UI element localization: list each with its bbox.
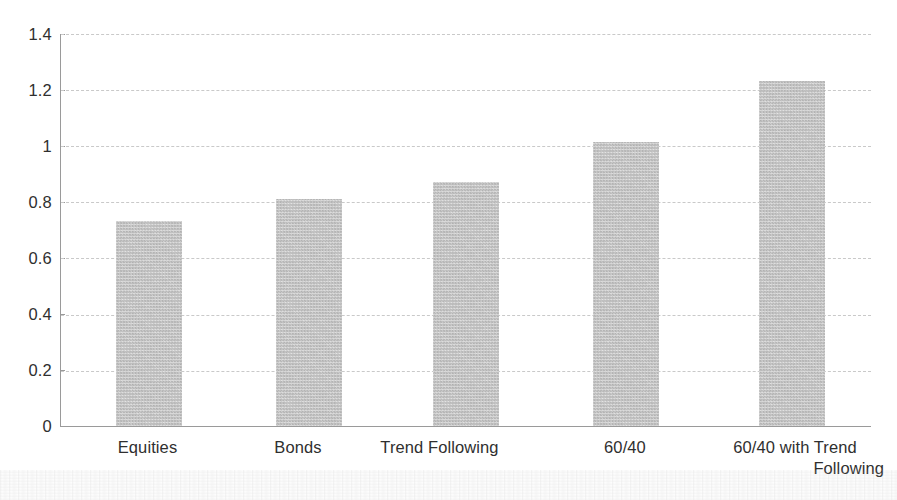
bar-chart: 1.4 1.2 1 0.8 0.6 0.4 0.2 0 Equities Bon — [0, 0, 897, 500]
x-label-60-40: 60/40 — [545, 437, 705, 458]
bar-60-40-with-trend-following — [759, 81, 825, 426]
x-label-60-40-text: 60/40 — [604, 438, 646, 456]
y-tick-label-0.4: 0.4 — [28, 305, 52, 324]
bar-bonds — [276, 199, 342, 426]
gridline-1.4 — [61, 34, 871, 35]
gridline-1.2 — [61, 90, 871, 91]
scan-texture — [0, 470, 897, 500]
y-tick-label-0.6: 0.6 — [28, 249, 52, 268]
x-label-trend-following-text: Trend Following — [380, 438, 498, 456]
y-tick-label-1.4: 1.4 — [28, 25, 52, 44]
y-tick-label-0: 0 — [43, 417, 52, 436]
y-axis: 1.4 1.2 1 0.8 0.6 0.4 0.2 0 — [0, 0, 52, 500]
x-label-trend-following: Trend Following — [352, 437, 527, 458]
y-tick-label-0.8: 0.8 — [28, 193, 52, 212]
x-label-bonds-text: Bonds — [274, 438, 321, 456]
bar-trend-following — [433, 182, 499, 426]
bar-60-40 — [593, 142, 659, 426]
plot-area — [60, 34, 871, 427]
x-label-60-40-with-trend-following-line1: 60/40 with Trend — [733, 438, 857, 456]
y-tick-label-1: 1 — [43, 137, 52, 156]
x-label-equities-text: Equities — [118, 438, 178, 456]
y-tick-label-0.2: 0.2 — [28, 361, 52, 380]
y-tick-label-1.2: 1.2 — [28, 81, 52, 100]
gridline-1.0 — [61, 146, 871, 147]
bar-equities — [116, 221, 182, 426]
x-label-equities: Equities — [60, 437, 235, 458]
